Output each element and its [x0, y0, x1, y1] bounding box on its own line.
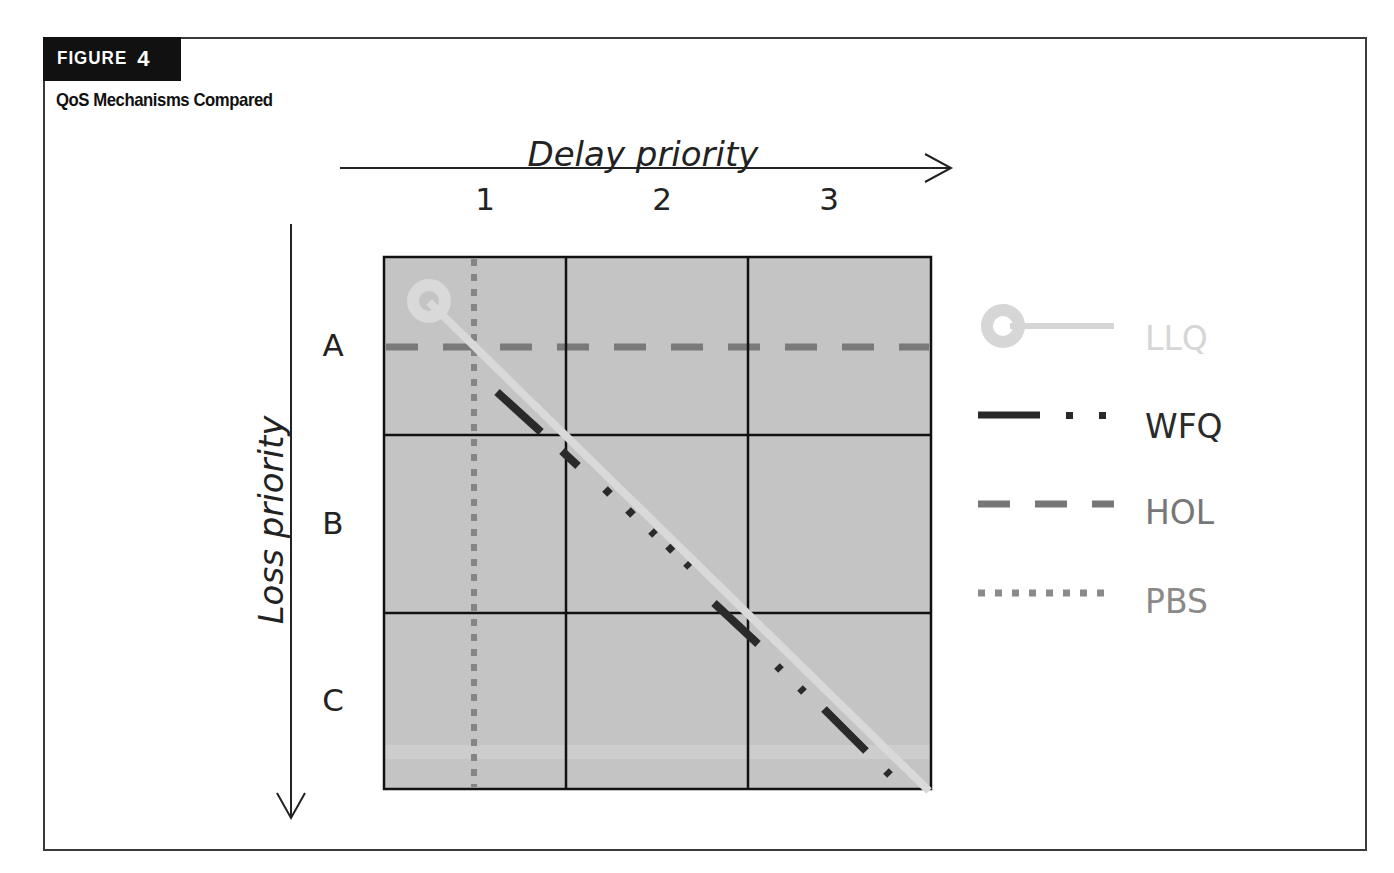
y-tick-b: B: [322, 505, 343, 541]
x-axis: Delay priority 1 2 3: [340, 134, 951, 217]
y-tick-c: C: [322, 682, 344, 718]
legend-item-llq: LLQ: [987, 310, 1208, 358]
legend-item-pbs: PBS: [978, 582, 1208, 621]
y-axis: Loss priority A B C: [251, 224, 344, 818]
y-tick-a: A: [322, 327, 343, 363]
x-axis-title: Delay priority: [528, 134, 760, 174]
legend-label-pbs: PBS: [1145, 582, 1208, 621]
x-tick-1: 1: [475, 181, 495, 217]
legend: LLQ WFQ HOL PBS: [978, 310, 1223, 621]
x-tick-3: 3: [819, 181, 839, 217]
legend-label-hol: HOL: [1145, 493, 1215, 532]
priority-grid: [384, 257, 931, 791]
legend-item-hol: HOL: [978, 493, 1215, 532]
legend-label-wfq: WFQ: [1145, 407, 1223, 446]
legend-item-wfq: WFQ: [978, 407, 1223, 446]
y-axis-title: Loss priority: [251, 415, 291, 625]
legend-label-llq: LLQ: [1145, 319, 1208, 358]
x-tick-2: 2: [652, 181, 672, 217]
qos-diagram: Delay priority 1 2 3 Loss priority A B C: [0, 0, 1394, 873]
